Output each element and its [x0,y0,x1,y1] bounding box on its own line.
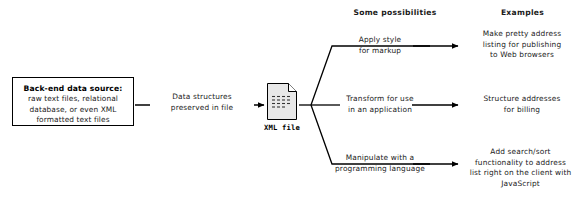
xml-file-label: XML file [248,123,316,132]
source-box-title: Back-end data source: [13,83,133,94]
branch-action-transform: Transform for use in an application [337,94,423,115]
branch-example-web-browsers: Make pretty address listing for publishi… [466,29,578,61]
source-data-box: Back-end data source: raw text files, re… [12,77,134,126]
branch-action-manipulate: Manipulate with a programming language [333,153,427,174]
branch-example-javascript: Add search/sort functionality to address… [462,147,579,189]
header-some-possibilities: Some possibilities [330,8,460,19]
diagram-canvas: Some possibilities Examples Back-end dat… [0,0,579,198]
header-examples: Examples [470,8,575,19]
branch-example-billing: Structure addresses for billing [466,94,578,115]
flow-label-data-structures: Data structures preserved in file [150,92,254,113]
branch-action-apply-style: Apply style for markup [337,35,423,56]
xml-file-icon [267,83,297,120]
source-box-body: raw text files, relational database, or … [13,94,133,126]
